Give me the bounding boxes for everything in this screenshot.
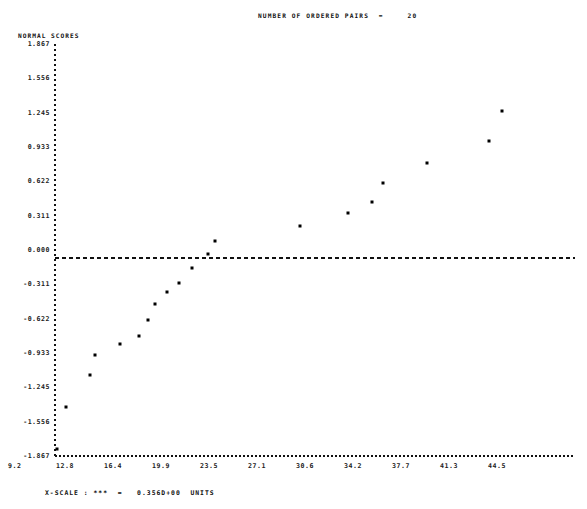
data-point: [207, 253, 210, 256]
y-axis-tick-label: -0.311: [23, 280, 50, 288]
data-point: [65, 406, 68, 409]
y-axis-tick-label: -1.867: [23, 452, 50, 460]
data-point: [178, 282, 181, 285]
x-axis-tick-label: 16.4: [104, 462, 122, 470]
x-axis-tick-label: 27.1: [248, 462, 266, 470]
y-axis-tick-label: -1.245: [23, 383, 50, 391]
data-point: [347, 212, 350, 215]
x-axis-tick-label: 12.8: [56, 462, 74, 470]
data-point: [501, 110, 504, 113]
data-point: [154, 303, 157, 306]
data-point: [166, 291, 169, 294]
data-point: [488, 140, 491, 143]
data-point: [147, 319, 150, 322]
data-point: [138, 335, 141, 338]
x-axis-tick-labels: 9.212.816.419.923.527.130.634.237.741.34…: [0, 462, 587, 478]
y-axis-tick-label: 0.622: [28, 177, 50, 185]
data-point: [214, 240, 217, 243]
x-axis-tick-label: 37.7: [392, 462, 410, 470]
data-point: [371, 201, 374, 204]
x-axis-tick-label: 19.9: [152, 462, 170, 470]
data-point: [299, 225, 302, 228]
data-point: [382, 182, 385, 185]
x-axis-tick-label: 44.5: [488, 462, 506, 470]
y-axis-tick-labels: 1.8671.5561.2450.9330.6220.3110.000-0.31…: [0, 0, 50, 509]
scatter-plot-area: [55, 44, 575, 456]
data-point: [191, 267, 194, 270]
y-axis-tick-label: -1.556: [23, 418, 50, 426]
data-point: [89, 374, 92, 377]
y-axis-tick-label: -0.622: [23, 315, 50, 323]
y-axis-tick-label: 1.867: [28, 40, 50, 48]
y-axis-tick-label: 0.311: [28, 212, 50, 220]
data-point: [426, 162, 429, 165]
y-axis-tick-label: -0.933: [23, 349, 50, 357]
chart-canvas: NUMBER OF ORDERED PAIRS = 20 NORMAL SCOR…: [0, 0, 587, 509]
y-axis-tick-label: 1.556: [28, 74, 50, 82]
data-point: [56, 448, 59, 451]
x-axis-tick-label: 41.3: [440, 462, 458, 470]
y-axis-tick-label: 0.933: [28, 143, 50, 151]
x-axis-tick-label: 23.5: [200, 462, 218, 470]
x-axis-tick-label: 30.6: [296, 462, 314, 470]
value-axis: [55, 455, 575, 457]
data-point: [94, 354, 97, 357]
chart-title: NUMBER OF ORDERED PAIRS = 20: [258, 12, 417, 19]
y-axis-tick-label: 0.000: [28, 246, 50, 254]
x-scale-footnote: X-SCALE : *** = 0.356D+00 UNITS: [45, 489, 215, 497]
x-axis-tick-label: 9.2: [8, 462, 21, 470]
y-axis-tick-label: 1.245: [28, 109, 50, 117]
data-point: [119, 343, 122, 346]
x-axis-tick-label: 34.2: [344, 462, 362, 470]
